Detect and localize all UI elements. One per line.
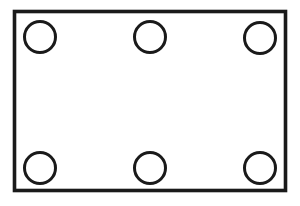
figure-drawing [0,0,300,206]
hole-bottom-center [135,153,166,184]
hole-top-right [245,23,276,54]
hole-bottom-left [25,153,56,184]
hole-bottom-right [245,153,276,184]
hole-top-left [25,22,56,53]
hole-top-center [135,22,166,53]
figure-canvas [0,0,300,206]
